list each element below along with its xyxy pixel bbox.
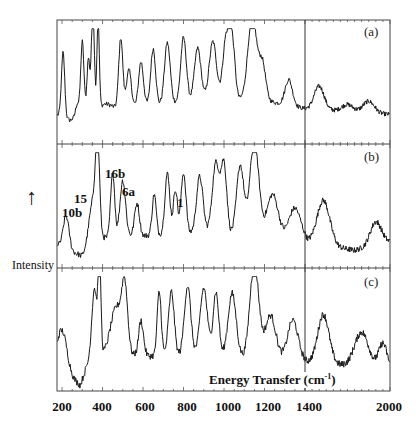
panel-label-a: (a) [364, 24, 378, 40]
x-tick-label: 200 [52, 399, 72, 415]
x-tick-label: 1400 [296, 399, 322, 415]
peak-label-16b: 16b [105, 166, 125, 182]
spectrum-trace [57, 29, 389, 122]
plot-frames [57, 20, 390, 391]
x-axis-label: Energy Transfer (cm-1) [207, 372, 338, 388]
x-tick-label: 1200 [255, 399, 281, 415]
peak-label-10b: 10b [62, 205, 82, 221]
peak-label-15: 15 [74, 191, 87, 207]
spectra-traces [57, 29, 389, 389]
x-tick-label: 600 [135, 399, 155, 415]
x-tick-label: 800 [177, 399, 197, 415]
panel-label-c: (c) [364, 274, 378, 290]
intensity-arrow-icon: ↑ [26, 186, 37, 208]
peak-label-6a: 6a [122, 184, 135, 200]
y-axis-label: Intensity [12, 258, 54, 273]
panel-label-b: (b) [364, 149, 379, 165]
x-tick-label: 1000 [215, 399, 241, 415]
peak-label-1: 1 [177, 195, 184, 211]
x-tick-label: 2000 [376, 399, 402, 415]
x-tick-label: 400 [92, 399, 112, 415]
